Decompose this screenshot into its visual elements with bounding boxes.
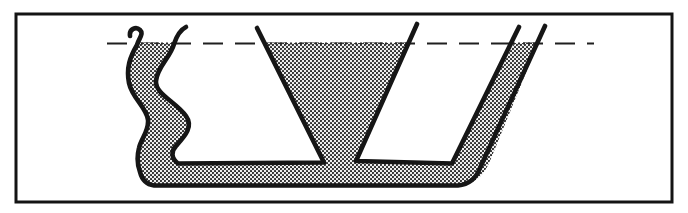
communicating-vessels-figure bbox=[0, 0, 688, 213]
diagram-svg bbox=[0, 0, 688, 213]
